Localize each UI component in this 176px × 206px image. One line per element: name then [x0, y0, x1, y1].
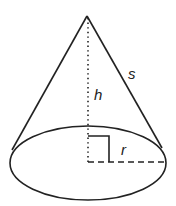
- radius-label: r: [121, 141, 127, 158]
- cone-slant-height-line: [87, 16, 162, 148]
- slant-height-label: s: [128, 65, 136, 82]
- right-angle-marker: [88, 136, 109, 162]
- cone-diagram: s h r: [0, 0, 176, 206]
- cone-base-ellipse: [10, 126, 166, 200]
- height-label: h: [94, 86, 102, 103]
